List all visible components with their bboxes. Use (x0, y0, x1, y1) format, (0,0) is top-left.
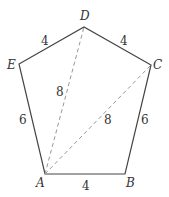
diagonal-label-ad: 8 (56, 85, 64, 99)
diagonal-ad (45, 27, 84, 174)
side-label-ea: 6 (19, 113, 27, 127)
vertex-label-a: A (35, 176, 45, 190)
side-label-de: 4 (41, 34, 49, 48)
side-label-cd: 4 (120, 34, 128, 48)
vertex-label-e: E (6, 58, 16, 72)
vertex-label-d: D (79, 9, 90, 23)
pentagon-diagram: D E C A B 4 4 6 6 4 8 8 (0, 0, 169, 197)
side-label-bc: 6 (141, 113, 149, 127)
vertex-label-b: B (125, 176, 135, 190)
diagonal-label-ac: 8 (104, 113, 112, 127)
diagonal-ac (45, 65, 151, 174)
pentagon-outline (19, 27, 151, 174)
side-label-ab: 4 (82, 179, 90, 193)
vertex-label-c: C (153, 58, 162, 72)
